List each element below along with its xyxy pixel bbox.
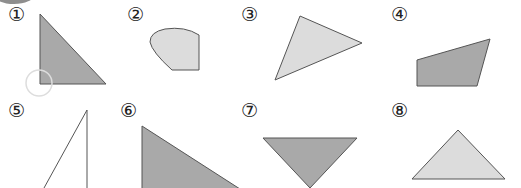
shape-4[interactable] — [417, 39, 490, 86]
label-7: ⑦ — [241, 100, 258, 120]
label-3: ③ — [241, 4, 258, 24]
label-5: ⑤ — [8, 100, 25, 120]
shape-3[interactable] — [275, 16, 362, 80]
label-2: ② — [127, 4, 144, 24]
shape-7[interactable] — [263, 138, 357, 188]
shape-6[interactable] — [142, 126, 240, 188]
label-8: ⑧ — [391, 100, 408, 120]
shape-5[interactable] — [44, 110, 87, 188]
label-6: ⑥ — [120, 100, 137, 120]
shape-2[interactable] — [150, 28, 199, 70]
label-1: ① — [8, 4, 25, 24]
shapes-canvas — [0, 0, 521, 188]
shape-1[interactable] — [40, 14, 106, 84]
label-4: ④ — [391, 4, 408, 24]
shape-8[interactable] — [412, 130, 505, 179]
